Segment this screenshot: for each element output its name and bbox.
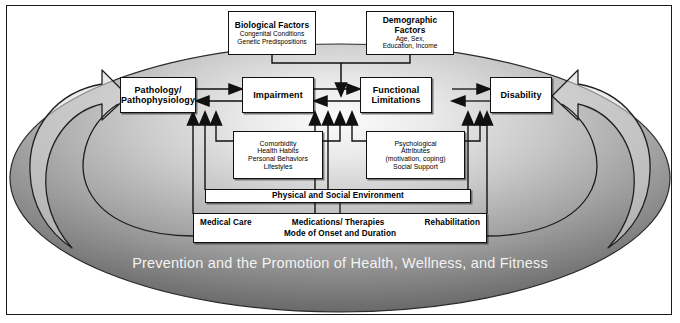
biological-factors-line-2: Genetic Predispositions: [237, 38, 306, 45]
psychological-line-3: (motivation, coping): [385, 155, 445, 163]
rehabilitation-label: Rehabilitation: [424, 218, 480, 227]
box-impairment[interactable]: Impairment: [242, 77, 314, 113]
pathology-line-1: Pathology/: [134, 85, 181, 95]
impairment-label: Impairment: [253, 90, 303, 100]
comorbidity-line-4: Lifestyles: [264, 163, 293, 171]
box-psychological-attributes[interactable]: Psychological Attributes (motivation, co…: [366, 131, 465, 179]
functional-limitations-line-2: Limitations: [371, 95, 420, 105]
psychological-line-1: Psychological: [394, 140, 436, 148]
biological-factors-title: Biological Factors: [235, 21, 309, 30]
box-pathology[interactable]: Pathology/ Pathophysiology: [120, 77, 196, 113]
demographic-factors-title: Demographic Factors: [367, 16, 453, 35]
pathology-line-2: Pathophysiology: [121, 95, 195, 105]
psychological-line-4: Social Support: [393, 163, 438, 171]
functional-limitations-line-1: Functional: [373, 85, 420, 95]
psychological-line-2: Attributes: [401, 147, 430, 155]
comorbidity-line-1: Comorbidity: [260, 140, 297, 148]
diagram-canvas: Biological Factors Congenital Conditions…: [0, 0, 680, 323]
box-physical-social-environment[interactable]: Physical and Social Environment: [205, 189, 471, 203]
comorbidity-line-2: Health Habits: [257, 147, 298, 155]
disability-label: Disability: [500, 90, 541, 100]
box-biological-factors[interactable]: Biological Factors Congenital Conditions…: [228, 11, 316, 55]
demographic-factors-line-1: Age, Sex,: [396, 35, 425, 42]
medications-therapies-label: Medications/ Therapies: [292, 218, 385, 227]
box-comorbidity[interactable]: Comorbidity Health Habits Personal Behav…: [233, 131, 323, 179]
biological-factors-line-1: Congenital Conditions: [240, 30, 305, 37]
diagram-graphics: [0, 0, 680, 323]
prevention-banner: Prevention and the Promotion of Health, …: [0, 255, 680, 271]
demographic-factors-line-2: Education, Income: [383, 42, 438, 49]
box-demographic-factors[interactable]: Demographic Factors Age, Sex, Education,…: [366, 11, 454, 55]
box-functional-limitations[interactable]: Functional Limitations: [360, 77, 432, 113]
physical-social-environment-label: Physical and Social Environment: [272, 191, 404, 200]
comorbidity-line-3: Personal Behaviors: [248, 155, 308, 163]
medical-care-label: Medical Care: [200, 218, 252, 227]
box-medical-care[interactable]: Medical Care Medications/ Therapies Reha…: [193, 213, 487, 243]
box-disability[interactable]: Disability: [490, 77, 552, 113]
mode-of-onset-label: Mode of Onset and Duration: [284, 229, 396, 238]
